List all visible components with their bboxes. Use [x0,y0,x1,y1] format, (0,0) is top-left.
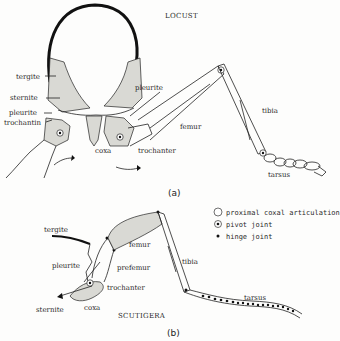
label-trochanter: trochanter [138,147,176,155]
label-b-femur: femur [129,241,151,249]
label-b-pleurite: pleurite [52,262,80,270]
panel-b-tag: (b) [167,328,180,338]
label-coxa: coxa [95,147,111,155]
label-b-sternite: sternite [36,306,64,314]
pivot-joint-dot [89,282,91,284]
locust-left-leg [6,140,44,178]
label-tergite: tergite [16,73,40,81]
label-b-tergite: tergite [44,226,68,234]
label-pleurite-right: pleurite [135,84,163,92]
scutigera-tibia [158,212,190,292]
pivot-joint-dot [59,132,61,134]
label-b-tibia: tibia [182,258,198,266]
open-circle-icon [214,208,222,216]
label-b-prefemur: prefemur [117,264,151,272]
legend-label-pivot: pivot joint [226,221,272,229]
locust-tibia-muscle-line [240,100,250,140]
arrowhead-icon [57,293,63,299]
label-b-tarsus: tarsus [244,294,266,302]
locust-left-leg-edge [44,146,56,178]
scutigera-prefemur [92,238,114,282]
hinge-joint-icon [185,289,188,292]
scutigera-tergite [52,236,90,244]
pivot-joint-dot [119,136,121,138]
label-femur: femur [180,123,202,131]
arrowhead-icon [71,155,75,161]
scutigera-tibia-muscle-line [168,246,176,272]
figure-drawing: LOCUST tergite sternite pleurite trochan… [0,0,340,341]
filled-dot-icon [217,235,220,238]
label-b-coxa: coxa [84,304,100,312]
dotted-circle-center [217,223,220,226]
label-tibia: tibia [262,107,278,115]
locust-sternum [86,116,102,146]
panel-a-tag: (a) [168,188,181,198]
locust-right-coxa [104,116,134,146]
legend-label-hinge: hinge joint [226,233,272,241]
legend-label-proximal: proximal coxal articulation [226,209,340,217]
label-pleurite-left: pleurite [9,109,37,117]
scutigera-title: SCUTIGERA [118,312,166,320]
figure: LOCUST tergite sternite pleurite trochan… [0,0,340,341]
label-trochantin: trochantin [4,119,42,127]
locust-title: LOCUST [165,12,198,20]
rotation-arrow-icon [54,158,72,165]
arrowhead-icon [137,165,141,171]
label-b-trochanter: trochanter [107,284,145,292]
legend: proximal coxal articulation pivot joint … [214,208,340,241]
rotation-arrow-icon [116,167,138,169]
pivot-joint-dot [262,152,264,154]
locust-left-plate [48,58,90,112]
locust-right-plate [104,58,142,108]
label-sternite: sternite [10,94,38,102]
label-tarsus: tarsus [268,171,290,179]
